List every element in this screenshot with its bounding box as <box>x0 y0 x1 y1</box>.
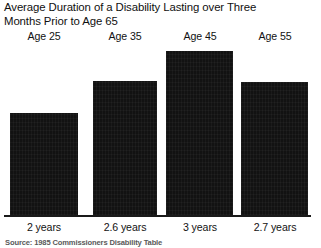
bar-chart-figure: Average Duration of a Disability Lasting… <box>0 0 321 248</box>
bar-age-25 <box>10 113 78 215</box>
value-label-age-35: 2.6 years <box>85 220 165 235</box>
value-label-row: 2 years 2.6 years 3 years 2.7 years <box>0 220 321 235</box>
bar-age-45 <box>166 51 233 215</box>
bar-age-55 <box>241 82 308 215</box>
source-note: Source: 1985 Commissioners Disability Ta… <box>5 238 162 247</box>
bar-age-35 <box>93 81 157 215</box>
baseline-axis <box>4 215 311 217</box>
value-label-age-55: 2.7 years <box>235 220 315 235</box>
value-label-age-25: 2 years <box>4 220 84 235</box>
plot-area <box>0 0 321 216</box>
value-label-age-45: 3 years <box>160 220 240 235</box>
